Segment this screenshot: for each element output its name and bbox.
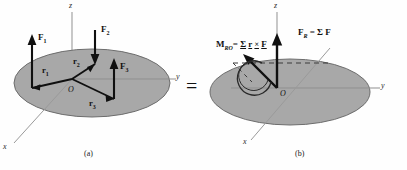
- origin-label-b: O: [280, 90, 286, 98]
- figure-root: z y x O F1 F2 F3 r1 r2 r3 (a) =: [0, 0, 407, 170]
- resultant-moment-f: F: [261, 39, 267, 49]
- resultant-moment-label: MRO= Σ r × F: [216, 40, 267, 51]
- reference-plane-b: [210, 59, 370, 125]
- resultant-force-subscript: R: [304, 33, 308, 39]
- resultant-moment-equals: =: [233, 39, 238, 49]
- caption-panel-b: (b): [295, 150, 304, 158]
- resultant-moment-sigma: Σ: [240, 39, 246, 49]
- panel-b-graphics: [0, 0, 407, 170]
- resultant-force-term: F: [325, 27, 331, 37]
- resultant-moment-subscript: RO: [225, 45, 233, 51]
- resultant-force-sigma: Σ: [317, 27, 323, 37]
- resultant-force-label: FR = Σ F: [298, 28, 331, 39]
- resultant-moment-r: r: [248, 39, 252, 49]
- axis-label-z-b: z: [274, 2, 277, 10]
- resultant-moment-symbol: M: [216, 39, 225, 49]
- resultant-moment-cross: ×: [254, 40, 259, 49]
- axis-label-y-b: y: [381, 82, 385, 90]
- axis-label-x-b: x: [243, 138, 247, 146]
- resultant-force-equals: =: [310, 27, 315, 37]
